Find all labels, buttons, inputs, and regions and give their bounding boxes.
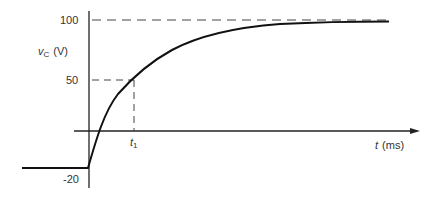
y-tick-50: 50 xyxy=(66,74,78,86)
x-axis-label: t(ms) xyxy=(375,139,404,151)
y-tick-neg20: -20 xyxy=(63,173,79,185)
y-tick-100: 100 xyxy=(60,14,78,26)
vc-curve xyxy=(22,22,389,169)
x-axis-arrow-icon xyxy=(410,128,420,134)
chart: 100 50 -20 vC(V) t1 t(ms) xyxy=(0,0,439,197)
y-axis-label: vC(V) xyxy=(38,45,68,59)
x-tick-t1: t1 xyxy=(130,136,138,150)
